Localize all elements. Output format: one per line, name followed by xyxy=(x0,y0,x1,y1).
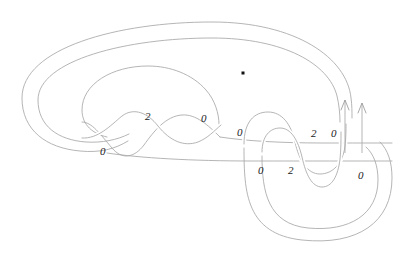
orientation-arrow-right xyxy=(358,103,366,153)
inner-arc-3 xyxy=(82,66,219,137)
bridge-strand-group xyxy=(107,137,392,161)
tangle-label-bottom-0-right: 0 xyxy=(358,170,364,181)
tangle-label-left-2: 2 xyxy=(145,111,151,122)
tangle-label-left-0-right: 0 xyxy=(201,113,207,124)
tangle-label-left-0: 0 xyxy=(100,146,106,157)
right-wave-inner-casing xyxy=(262,128,341,187)
bridge-lower xyxy=(107,153,392,161)
tangle-label-bottom-2: 2 xyxy=(288,165,294,176)
knot-diagram-svg xyxy=(0,0,417,259)
right-outer-loop-1 xyxy=(244,142,392,241)
outer-arc-2 xyxy=(38,38,340,142)
left-outer-strand-group xyxy=(22,22,352,152)
orientation-arrows-group xyxy=(341,100,366,153)
tangle-label-right-0-top: 0 xyxy=(331,128,337,139)
basepoint-dot xyxy=(242,72,245,75)
outer-arc-1 xyxy=(22,22,352,152)
knot-diagram-canvas: 0 2 0 0 2 0 0 2 0 xyxy=(0,0,417,259)
tangle-label-right-2-top: 2 xyxy=(311,128,317,139)
tangle-label-bottom-0-left: 0 xyxy=(258,165,264,176)
tangle-label-mid-0: 0 xyxy=(237,127,243,138)
right-outer-loop-group xyxy=(244,142,392,241)
